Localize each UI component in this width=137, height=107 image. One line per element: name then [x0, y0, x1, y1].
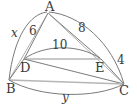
- measure-label-de: 10: [52, 38, 67, 52]
- vertex-label-b: B: [6, 81, 16, 96]
- geometry-canvas: A B C D E x 6 8 10 4 y: [0, 0, 137, 107]
- measure-label-ec: 4: [117, 53, 125, 67]
- measure-label-ad: 6: [29, 24, 37, 38]
- vertex-label-d: D: [20, 60, 30, 75]
- measure-label-ae: 8: [78, 21, 86, 35]
- segment-bc: [9, 80, 124, 84]
- vertex-label-a: A: [44, 0, 55, 14]
- geometry-figure: A B C D E x 6 8 10 4 y: [0, 0, 137, 107]
- measure-label-x: x: [11, 26, 18, 40]
- vertex-label-e: E: [95, 60, 105, 75]
- vertex-label-c: C: [119, 83, 129, 98]
- measure-label-y: y: [61, 90, 69, 104]
